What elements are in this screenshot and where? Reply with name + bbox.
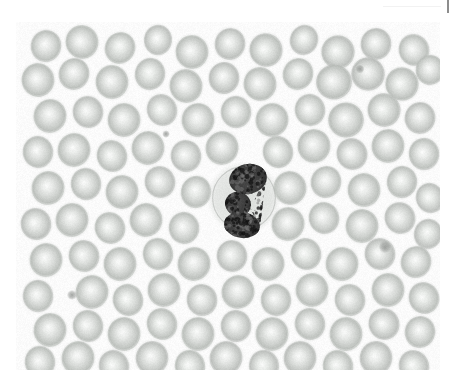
blood-smear-canvas bbox=[16, 22, 440, 370]
blood-smear-micrograph bbox=[16, 22, 440, 370]
top-tick-mark bbox=[447, 0, 449, 13]
top-marker-strip bbox=[0, 0, 457, 20]
top-rule-line bbox=[383, 6, 441, 7]
